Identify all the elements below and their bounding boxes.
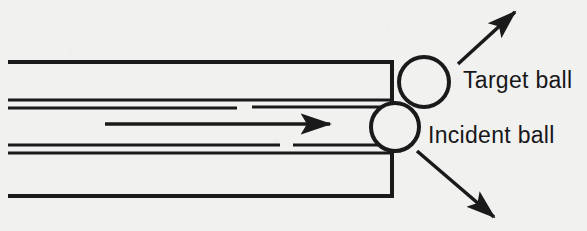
target-ball-label: Target ball bbox=[463, 69, 572, 92]
channel-lines-group bbox=[8, 100, 392, 153]
rails-group bbox=[8, 60, 394, 198]
incident-ball-label: Incident ball bbox=[428, 124, 555, 147]
target-ball-velocity-arrow bbox=[458, 12, 515, 64]
target-ball bbox=[399, 57, 449, 107]
incident-ball bbox=[371, 103, 419, 151]
diagram-canvas bbox=[0, 0, 587, 231]
arrows-group bbox=[105, 12, 515, 217]
collision-diagram-figure: Target ball Incident ball bbox=[0, 0, 587, 231]
incident-ball-deflection-arrow bbox=[417, 151, 494, 217]
